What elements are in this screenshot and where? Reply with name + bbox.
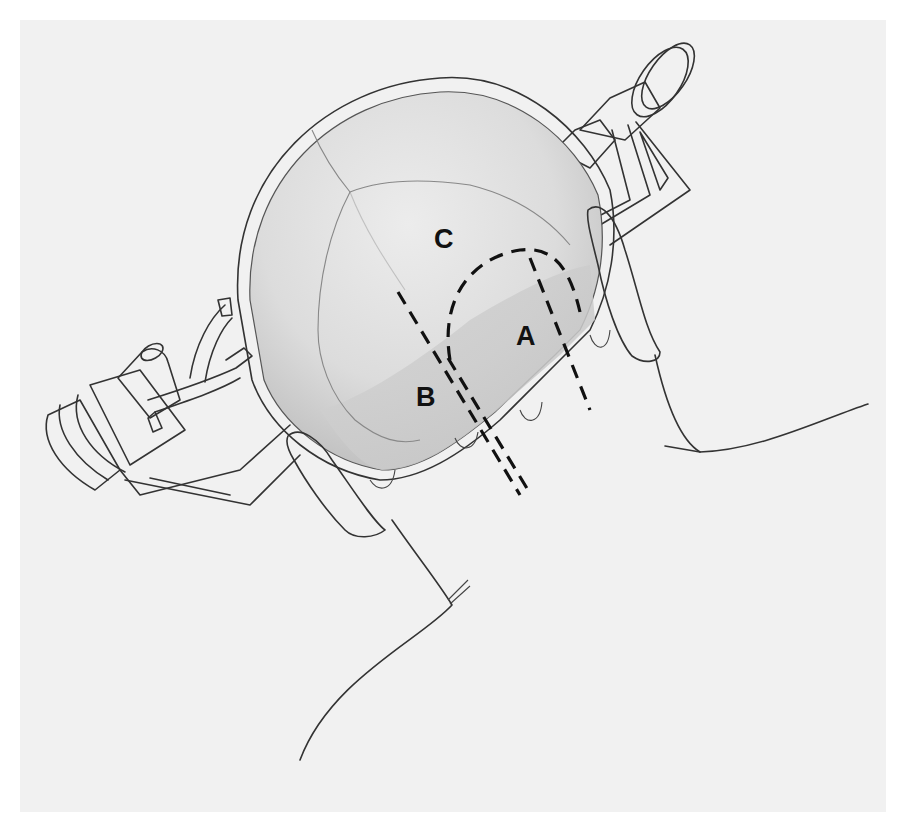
label-a: A: [516, 321, 536, 351]
skull: [238, 78, 614, 488]
surgical-illustration: C A B: [0, 0, 910, 829]
label-c: C: [434, 224, 454, 254]
label-b: B: [416, 382, 436, 412]
